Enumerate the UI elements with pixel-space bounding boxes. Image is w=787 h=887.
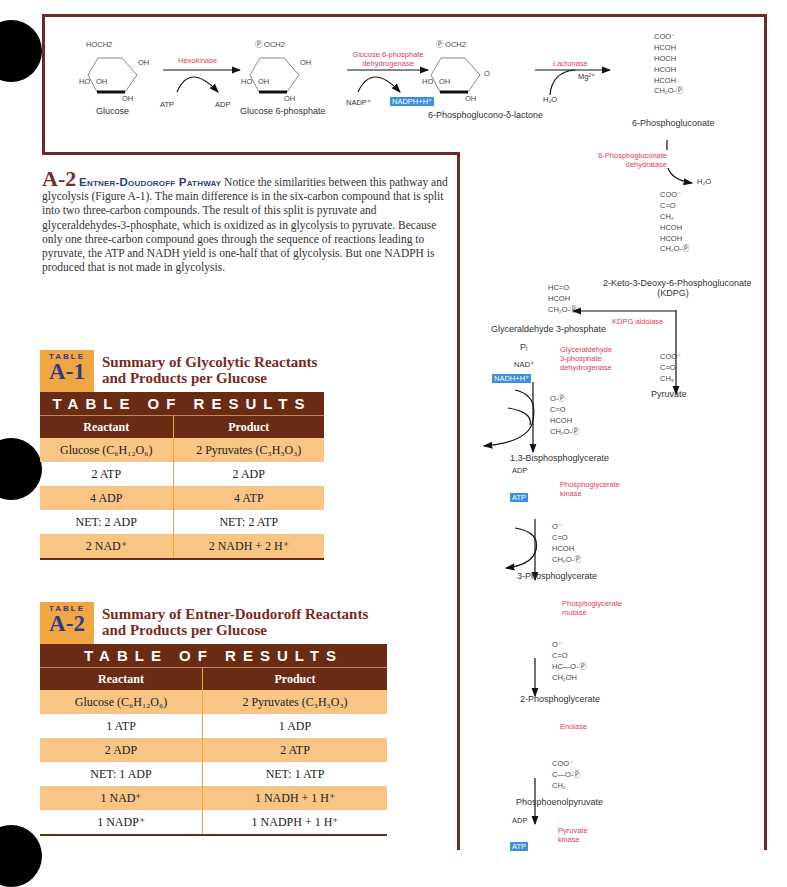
pg2-label: 2-Phosphoglycerate: [520, 694, 600, 704]
table-a2-title: Summary of Entner-Doudoroff Reactantsand…: [94, 602, 368, 644]
table-a2-grid: ReactantProduct Glucose (C₆H₁₂O₆)2 Pyruv…: [40, 667, 387, 836]
mutase-label: Phosphoglyceratemutase: [562, 599, 622, 617]
section-number: A-2: [42, 166, 76, 191]
glucose-oh2: OH: [96, 77, 107, 88]
pk-label: Pyruvatekinase: [558, 826, 588, 844]
table-a2-banner: TABLE OF RESULTS: [40, 644, 387, 667]
pi-in: Pᵢ: [520, 342, 527, 352]
table-a1-title: Summary of Glycolytic Reactantsand Produ…: [94, 350, 317, 392]
table-a1: TABLE A-1 Summary of Glycolytic Reactant…: [40, 350, 324, 560]
glucose-oh3: OH: [122, 94, 133, 105]
mg-cofactor: Mg²⁺: [578, 72, 595, 81]
section-title: Entner-Doudoroff Pathway: [79, 176, 221, 188]
table-a1-badge: TABLE A-1: [40, 350, 94, 392]
lactone-oh2: OH: [465, 94, 476, 105]
table-a2-badge: TABLE A-2: [40, 602, 94, 644]
lactone-oh: OH: [439, 77, 450, 88]
nadp-in: NADP⁺: [346, 98, 371, 107]
col-header: Product: [203, 668, 388, 691]
pep-label: Phosphoenolpyruvate: [516, 797, 603, 807]
h2o-in: H₂O: [543, 95, 557, 104]
pg3-label: 3-Phosphoglycerate: [517, 571, 597, 581]
atp-out-pk-highlight: ATP: [510, 842, 528, 851]
lactone-phosphate: Ⓟ OCH2: [436, 40, 466, 51]
table-row: NET: 1 ADPNET: 1 ATP: [40, 762, 387, 786]
glucose-ch2oh: HOCH2: [86, 40, 112, 51]
g3p-structure: HC=OHCOHCH₂O-Ⓟ: [548, 283, 577, 316]
glucose-ho: HO: [79, 77, 90, 88]
frame-mid: [42, 152, 460, 155]
table-row: 2 ATP2 ADP: [40, 462, 324, 486]
g6p-ho: HO: [241, 77, 252, 88]
glucose-label: Glucose: [96, 106, 129, 116]
dehydratase-label: 6-Phosphogluconatedehydratase: [585, 151, 667, 169]
table-a2: TABLE A-2 Summary of Entner-Doudoroff Re…: [40, 602, 387, 836]
adp-out: ADP: [215, 100, 230, 109]
table-row: 1 NADP⁺1 NADPH + 1 H⁺: [40, 810, 387, 835]
table-row: Glucose (C₆H₁₂O₆)2 Pyruvates (C₃H₃O₃): [40, 438, 324, 462]
section-body: Notice the similarities between this pat…: [42, 176, 448, 273]
g6p-label: Glucose 6-phosphate: [240, 106, 326, 116]
pyruvate-label: Pyruvate: [651, 389, 687, 399]
phosphogluconate-structure: COO⁻HCOHHOCHHCOHHCOHCH₂O-Ⓟ: [654, 32, 683, 97]
h2o-out: H₂O: [697, 177, 711, 186]
table-a1-grid: ReactantProduct Glucose (C₆H₁₂O₆)2 Pyruv…: [40, 415, 324, 560]
g6p-oh3: OH: [284, 94, 295, 105]
adp-in-pgk: ADP: [512, 466, 527, 475]
lactone-ho: HO: [422, 77, 433, 88]
kdpg-structure: COO⁻C=OCH₂HCOHHCOHCH₂O-Ⓟ: [660, 190, 689, 255]
lactone-label: 6-Phosphoglucono-δ-lactone: [428, 110, 543, 120]
atp-in: ATP: [160, 100, 174, 109]
pg3-structure: O⁻C=OHCOHCH₂O-Ⓟ: [552, 522, 581, 566]
pgk-label: Phosphoglyceratekinase: [560, 480, 620, 498]
g3p-label: Glyceraldehyde 3-phosphate: [491, 324, 606, 334]
table-row: 1 ATP1 ADP: [40, 714, 387, 738]
phosphogluconate-label: 6-Phosphogluconate: [632, 118, 715, 128]
pg2-structure: O⁻C=OHC—O-ⓅCH₂OH: [552, 640, 586, 684]
table-row: 4 ADP4 ATP: [40, 486, 324, 510]
nad-in: NAD⁺: [514, 360, 534, 369]
table-a1-banner: TABLE OF RESULTS: [40, 392, 324, 415]
glucose-oh: OH: [138, 58, 149, 69]
pep-structure: COO⁻C—O-ⓅCH₂: [552, 759, 580, 792]
enolase-label: Enolase: [560, 722, 587, 731]
table-row: 1 NAD⁺1 NADH + 1 H⁺: [40, 786, 387, 810]
g6p-phosphate: Ⓟ OCH2: [255, 40, 285, 51]
table-row: 2 NAD⁺2 NADH + 2 H⁺: [40, 534, 324, 559]
bpg-label: 1,3-Bisphosphoglycerate: [510, 453, 609, 463]
kdpg-aldolase-label: KDPG aldolase: [612, 317, 663, 326]
g6pdh-label: Glucose 6-phosphatedehydrogenase: [348, 50, 428, 68]
atp-out-pgk-highlight: ATP: [510, 493, 528, 502]
g6p-oh: OH: [300, 58, 311, 69]
adp-in-pk: ADP: [512, 816, 527, 825]
col-header: Reactant: [40, 668, 203, 691]
col-header: Reactant: [40, 416, 173, 439]
g3pdh-label: Glyceraldehyde3-phosphatedehydrogenase: [560, 345, 612, 372]
binder-hole: [0, 825, 42, 887]
table-row: 2 ADP2 ATP: [40, 738, 387, 762]
section-a2-paragraph: A-2 Entner-Doudoroff Pathway Notice the …: [42, 172, 452, 274]
pyruvate-structure: COO⁻C=OCH₃: [660, 352, 681, 385]
hexokinase-label: Hexokinase: [178, 56, 217, 65]
nadph-out-highlight: NADPH+H⁺: [390, 97, 434, 106]
bpg-structure: O-ⓅC=OHCOHCH₂O-Ⓟ: [550, 394, 579, 438]
lactone-o: O: [484, 69, 490, 80]
g6p-oh2: OH: [258, 77, 269, 88]
table-row: Glucose (C₆H₁₂O₆)2 Pyruvates (C₃H₃O₃): [40, 690, 387, 714]
table-a2-caption: TABLE A-2 Summary of Entner-Doudoroff Re…: [40, 602, 387, 644]
kdpg-label: 2-Keto-3-Deoxy-6-Phosphogluconate(KDPG): [603, 278, 743, 298]
binder-hole: [0, 438, 42, 500]
frame-divider: [457, 152, 460, 850]
col-header: Product: [173, 416, 324, 439]
table-row: NET: 2 ADPNET: 2 ATP: [40, 510, 324, 534]
table-a1-caption: TABLE A-1 Summary of Glycolytic Reactant…: [40, 350, 324, 392]
nadh-out-highlight: NADH+H⁺: [492, 374, 531, 383]
lactonase-label: Lactonase: [553, 59, 588, 68]
